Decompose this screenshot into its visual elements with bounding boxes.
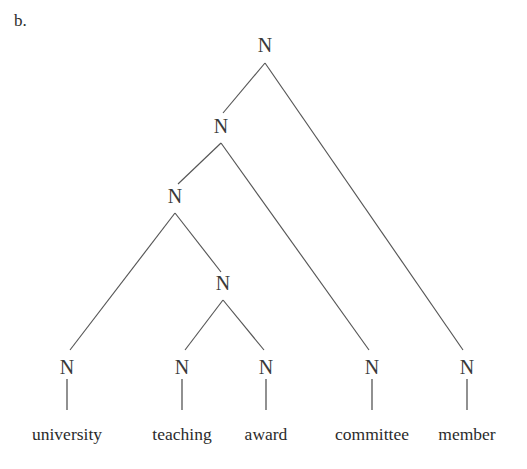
- leaf-word-committee: committee: [335, 424, 409, 444]
- n-leaf-member: N: [460, 356, 474, 378]
- leaf-word-teaching: teaching: [152, 424, 212, 444]
- syntax-tree-diagram: NNNNNNNNN universityteachingawardcommitt…: [0, 0, 527, 469]
- n-level4: N: [216, 272, 230, 294]
- n-level2: N: [214, 115, 228, 137]
- leaf-word-award: award: [245, 424, 288, 444]
- branch-l2-right: [221, 143, 369, 350]
- branch-root-left: [223, 63, 265, 113]
- branch-l4-right: [223, 300, 264, 350]
- leaf-stems-group: [67, 379, 467, 410]
- n-leaf-committee: N: [365, 356, 379, 378]
- syntax-tree-figure: b. NNNNNNNNN universityteachingawardcomm…: [0, 0, 527, 469]
- branch-l4-left: [185, 300, 223, 350]
- branch-l3-right: [175, 213, 221, 272]
- n-leaf-university: N: [60, 356, 74, 378]
- branch-root-right: [265, 63, 463, 350]
- branch-l2-left: [178, 143, 221, 184]
- branch-lines-group: [70, 63, 463, 350]
- leaf-words-group: universityteachingawardcommitteemember: [32, 424, 496, 444]
- n-root: N: [258, 34, 272, 56]
- leaf-word-member: member: [438, 424, 496, 444]
- n-leaf-award: N: [259, 356, 273, 378]
- n-level3: N: [168, 185, 182, 207]
- n-leaf-teaching: N: [175, 356, 189, 378]
- tree-nodes-group: NNNNNNNNN: [60, 34, 474, 378]
- branch-l3-left: [70, 213, 175, 350]
- leaf-word-university: university: [32, 424, 102, 444]
